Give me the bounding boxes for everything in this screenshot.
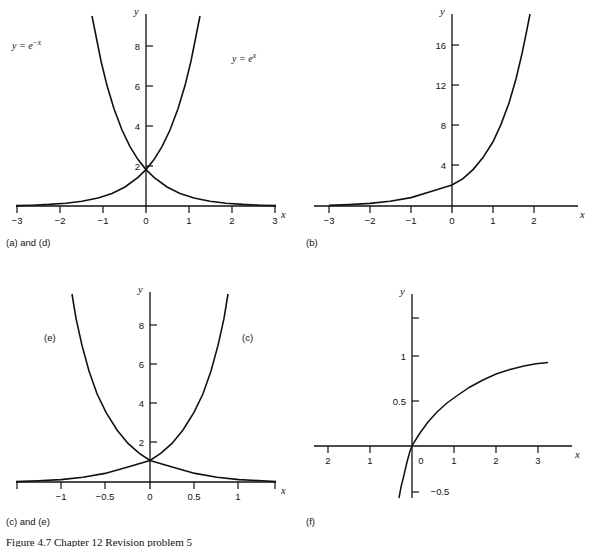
x-axis-label: x	[580, 209, 585, 220]
curve-label-e: (e)	[44, 332, 56, 343]
x-tick-label: 2	[229, 215, 234, 226]
curve-label-exp-x: y = ex	[232, 51, 256, 64]
x-tick-label: −1	[406, 215, 417, 226]
y-tick-label-negative: −0.5	[431, 486, 450, 497]
x-tick-label: 1	[235, 491, 240, 502]
panel-caption-f: (f)	[306, 516, 315, 527]
y-axis-label: y	[440, 6, 445, 17]
x-tick-label: −2	[55, 215, 66, 226]
y-tick-label: 8	[139, 320, 144, 331]
x-tick-label: 0	[418, 455, 423, 466]
y-axis-label: y	[134, 6, 139, 17]
curve-label-text: y = e	[232, 53, 253, 64]
x-axis-label: x	[281, 209, 286, 220]
curve-label-text: y = e	[12, 40, 33, 51]
x-tick-label: 1	[451, 455, 456, 466]
x-tick-label: 1	[490, 215, 495, 226]
y-tick-label: 0.5	[393, 396, 406, 407]
y-tick-marks	[146, 46, 153, 166]
y-tick-label: 1	[401, 351, 406, 362]
curve-label-c: (c)	[242, 332, 253, 343]
y-tick-label: 8	[441, 120, 446, 131]
figure-bottom-caption: Figure 4.7 Chapter 12 Revision problem 5	[6, 536, 192, 547]
curve-e	[72, 294, 276, 482]
y-tick-label: 6	[135, 81, 140, 92]
x-tick-marks	[328, 446, 538, 453]
curve-label-exponent: −x	[33, 38, 41, 47]
y-tick-label: 8	[135, 41, 140, 52]
y-axis-label: y	[138, 284, 143, 295]
panel-caption-c-e: (c) and (e)	[6, 516, 50, 527]
curve-label-exponent: x	[253, 51, 256, 60]
y-tick-label: 4	[441, 160, 446, 171]
x-tick-marks	[329, 206, 534, 213]
panel-b-plot	[300, 0, 593, 262]
x-tick-marks	[17, 482, 275, 489]
y-tick-label: 4	[135, 121, 140, 132]
curve-exp-x	[329, 14, 530, 205]
x-axis-label: x	[281, 485, 286, 496]
curve-log	[399, 363, 548, 499]
x-tick-label: 0	[449, 215, 454, 226]
x-tick-label: −0.5	[96, 491, 115, 502]
panel-caption-b: (b)	[306, 237, 318, 248]
y-tick-label: 4	[139, 398, 144, 409]
x-tick-label: 0	[147, 491, 152, 502]
y-tick-label: 2	[135, 161, 140, 172]
x-tick-label: 3	[272, 215, 277, 226]
panel-b: y x −3 −2 −1 0 1 2 4 8 12 16 (b)	[300, 0, 593, 262]
panel-caption-a-d: (a) and (d)	[6, 237, 50, 248]
panel-c-e: y x −1 −0.5 0 0.5 1 2 4 6 8 (e) (c) (c) …	[0, 270, 296, 535]
curve-label-exp-neg-x: y = e−x	[12, 38, 41, 51]
y-tick-label: 6	[139, 359, 144, 370]
x-tick-label: −3	[12, 215, 23, 226]
curve-exp-neg-x	[92, 16, 276, 206]
x-tick-label: 2	[493, 455, 498, 466]
curve-exp-x	[16, 16, 200, 206]
x-tick-label: 0	[143, 215, 148, 226]
panel-f: y x 2 1 0 1 2 3 −0.5 0.5 1 (f)	[300, 270, 593, 535]
x-tick-label: 0.5	[187, 491, 200, 502]
x-tick-label: 2	[531, 215, 536, 226]
y-tick-label: 2	[139, 437, 144, 448]
x-tick-label: 1	[186, 215, 191, 226]
x-axis-label: x	[575, 449, 580, 460]
y-tick-label: 12	[435, 80, 446, 91]
curve-c	[16, 294, 228, 482]
y-axis-label: y	[400, 286, 405, 297]
y-tick-marks	[452, 45, 459, 165]
y-tick-label: 16	[435, 40, 446, 51]
y-tick-marks	[150, 325, 157, 442]
x-tick-label: 1	[367, 455, 372, 466]
panel-a-d: y x −3 −2 −1 0 1 2 3 2 4 6 8 y = e−x y =…	[0, 0, 296, 262]
x-tick-label: −1	[56, 491, 67, 502]
x-tick-label: 3	[535, 455, 540, 466]
x-tick-label: −1	[98, 215, 109, 226]
x-tick-label: −2	[365, 215, 376, 226]
x-tick-label: −3	[324, 215, 335, 226]
x-tick-label: 2	[325, 455, 330, 466]
